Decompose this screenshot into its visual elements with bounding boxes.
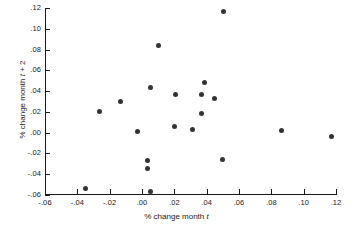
y-tick-mark (45, 70, 50, 71)
data-point (145, 158, 150, 163)
x-tick-mark (239, 189, 240, 195)
data-point (172, 124, 177, 129)
data-point (190, 127, 195, 132)
data-point (156, 43, 161, 48)
x-tick-mark (110, 189, 111, 195)
data-point (173, 92, 178, 97)
data-point (199, 92, 204, 97)
data-point (220, 157, 225, 162)
x-tick-mark (271, 189, 272, 195)
x-tick-mark (142, 189, 143, 195)
data-point (145, 166, 150, 171)
y-axis-title: % change month t + 2 (18, 20, 27, 180)
y-tick-mark (45, 8, 50, 9)
data-point (199, 111, 204, 116)
y-tick-mark (45, 133, 50, 134)
x-axis-title: % change month t (0, 212, 353, 221)
data-point (97, 109, 102, 114)
y-tick-mark (45, 112, 50, 113)
y-axis-line (45, 8, 46, 195)
y-tick-mark (45, 50, 50, 51)
x-axis-title-variable: t (207, 212, 209, 221)
x-axis-line (45, 194, 336, 195)
y-axis-title-prefix: % change month (18, 76, 27, 138)
x-axis-title-prefix: % change month (144, 212, 206, 221)
data-point (329, 134, 334, 139)
y-tick-mark (45, 195, 50, 196)
x-tick-mark (45, 189, 46, 195)
data-point (212, 96, 217, 101)
scatter-chart: -.06-.04-.02.00.02.04.06.08.10.12 -.06-.… (0, 0, 353, 231)
data-point (279, 128, 284, 133)
y-tick-label: .12 (0, 3, 41, 12)
data-point (148, 189, 153, 194)
y-axis-title-suffix: + 2 (18, 60, 27, 74)
data-point (118, 99, 123, 104)
data-point (202, 80, 207, 85)
x-tick-label: .12 (316, 198, 353, 207)
x-tick-mark (207, 189, 208, 195)
y-tick-mark (45, 153, 50, 154)
y-tick-mark (45, 29, 50, 30)
x-tick-mark (77, 189, 78, 195)
y-tick-mark (45, 91, 50, 92)
x-tick-mark (336, 189, 337, 195)
x-tick-mark (304, 189, 305, 195)
data-point (148, 85, 153, 90)
data-point (83, 186, 88, 191)
data-point (221, 9, 226, 14)
x-tick-mark (174, 189, 175, 195)
y-tick-mark (45, 174, 50, 175)
data-point (135, 129, 140, 134)
